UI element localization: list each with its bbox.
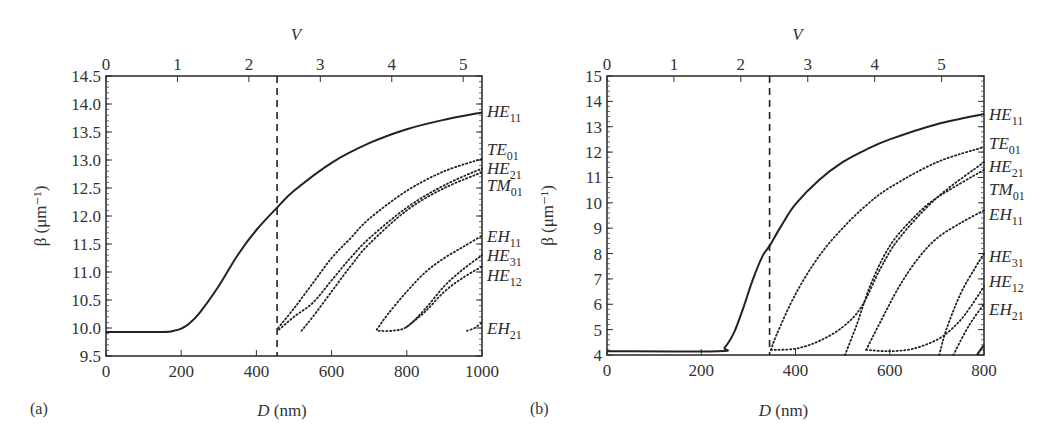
y-tick-label: 13 xyxy=(585,118,602,137)
y-axis: 456789101112131415 xyxy=(585,67,984,365)
top-tick-label: 4 xyxy=(388,55,397,74)
mode-curve-he31 xyxy=(379,255,482,331)
mode-curve-eh11 xyxy=(377,236,482,330)
y-tick-label: 5 xyxy=(594,321,603,340)
chart-panel-a: 9.510.010.511.011.512.012.513.013.514.01… xyxy=(30,25,523,420)
y-tick-label: 15 xyxy=(585,67,602,86)
mode-label-te01: TE01 xyxy=(989,134,1021,157)
top-axis-title: V xyxy=(291,25,304,44)
x-axis-title: D (nm) xyxy=(758,401,809,420)
top-tick-label: 0 xyxy=(603,55,612,74)
mode-label-he12: HE12 xyxy=(988,272,1024,295)
plot-frame xyxy=(607,76,984,355)
top-tick-label: 2 xyxy=(737,55,746,74)
mode-curve-te01 xyxy=(771,147,984,350)
y-tick-label: 12.5 xyxy=(71,179,101,198)
top-v-axis: 012345V xyxy=(603,25,946,82)
x-tick-label: 800 xyxy=(394,362,420,381)
mode-label-he11: HE11 xyxy=(486,102,521,125)
mode-curve-he11 xyxy=(106,112,482,332)
panel-label: (b) xyxy=(530,400,549,418)
mode-curve-he21 xyxy=(279,168,482,329)
chart-panel-b: 4567891011121314150200400600800012345VD … xyxy=(530,25,1025,420)
x-tick-label: 600 xyxy=(319,362,345,381)
y-tick-label: 11 xyxy=(586,168,602,187)
x-tick-label: 800 xyxy=(971,361,997,380)
y-tick-label: 9 xyxy=(594,219,603,238)
mode-curve-he12 xyxy=(939,254,984,356)
y-tick-label: 12 xyxy=(585,143,602,162)
mode-curve-he21 xyxy=(771,162,984,350)
y-tick-label: 13.5 xyxy=(71,123,101,142)
series-group xyxy=(106,112,482,332)
mode-label-he31: HE31 xyxy=(988,247,1024,270)
x-tick-label: 0 xyxy=(603,361,612,380)
mode-label-he12: HE12 xyxy=(486,266,522,289)
top-tick-label: 1 xyxy=(173,55,182,74)
y-axis-title: β (μm⁻¹) xyxy=(31,186,50,247)
x-tick-label: 400 xyxy=(783,361,809,380)
top-tick-label: 3 xyxy=(316,55,325,74)
figure: 9.510.010.511.011.512.012.513.013.514.01… xyxy=(0,0,1055,438)
x-tick-label: 400 xyxy=(244,362,270,381)
mode-label-eh21: EH21 xyxy=(486,319,522,342)
mode-curve-he11 xyxy=(607,114,984,351)
x-tick-label: 1000 xyxy=(465,362,499,381)
y-tick-label: 9.5 xyxy=(80,347,101,366)
x-tick-label: 600 xyxy=(877,361,903,380)
y-tick-label: 11.5 xyxy=(72,235,101,254)
y-tick-label: 14 xyxy=(585,92,603,111)
top-tick-label: 5 xyxy=(937,55,946,74)
y-tick-label: 6 xyxy=(594,295,603,314)
top-tick-label: 2 xyxy=(245,55,254,74)
x-tick-label: 200 xyxy=(689,361,715,380)
mode-curve-he12 xyxy=(407,266,482,327)
y-tick-label: 13.0 xyxy=(71,151,101,170)
plot-frame xyxy=(106,76,482,356)
y-tick-label: 4 xyxy=(594,346,603,365)
mode-label-he21: HE21 xyxy=(988,157,1024,180)
x-tick-label: 0 xyxy=(102,362,111,381)
y-tick-label: 8 xyxy=(594,245,603,264)
top-tick-label: 3 xyxy=(804,55,813,74)
top-tick-label: 1 xyxy=(670,55,679,74)
mode-curve-he31 xyxy=(866,287,984,352)
x-tick-label: 200 xyxy=(168,362,194,381)
y-tick-label: 7 xyxy=(594,270,603,289)
x-axis-title: D (nm) xyxy=(256,401,307,420)
y-tick-label: 10 xyxy=(585,194,602,213)
mode-label-eh21: EH21 xyxy=(988,300,1024,323)
y-tick-label: 10.0 xyxy=(71,319,101,338)
mode-curve-eh11 xyxy=(866,210,984,350)
mode-label-eh11: EH11 xyxy=(988,205,1023,228)
top-v-axis: 012345V xyxy=(102,25,468,82)
top-tick-label: 0 xyxy=(102,55,111,74)
mode-labels: HE11TE01HE21TM01EH11HE31HE12EH21 xyxy=(988,105,1025,323)
y-tick-label: 11.0 xyxy=(72,263,101,282)
y-tick-label: 12.0 xyxy=(71,207,101,226)
mode-label-he11: HE11 xyxy=(988,105,1023,128)
series-group xyxy=(607,114,984,355)
panel-label: (a) xyxy=(30,400,48,418)
mode-curve-eh21 xyxy=(467,322,482,330)
top-axis-title: V xyxy=(792,25,805,44)
y-axis-title: β (μm⁻¹) xyxy=(538,185,557,246)
top-tick-label: 5 xyxy=(459,55,468,74)
mode-label-tm01: TM01 xyxy=(989,180,1025,203)
y-tick-label: 14.0 xyxy=(71,95,101,114)
x-axis: 0200400600800 xyxy=(603,349,997,380)
y-tick-label: 10.5 xyxy=(71,291,101,310)
top-tick-label: 4 xyxy=(870,55,879,74)
x-axis: 02004006008001000 xyxy=(102,350,499,381)
mode-labels: HE11TE01HE21TM01EH11HE31HE12EH21 xyxy=(486,102,523,342)
y-tick-label: 14.5 xyxy=(71,67,101,86)
